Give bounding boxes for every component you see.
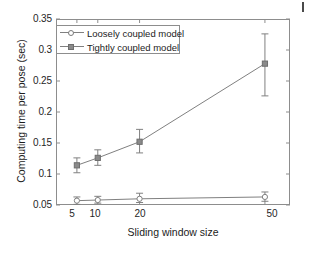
page-corner-mark [302, 2, 304, 12]
legend-box: Loosely coupled model Tightly coupled mo… [56, 25, 180, 54]
x-axis-title: Sliding window size [56, 226, 290, 238]
y-tick-label: 0.35 [10, 14, 52, 24]
legend-label: Loosely coupled model [87, 28, 184, 39]
legend-marker-open-circle-icon [57, 26, 87, 40]
legend-label: Tightly coupled model [87, 42, 179, 53]
x-tick-label: 50 [257, 208, 287, 219]
chart-figure: 0.35 0.3 0.25 0.2 0.15 0.1 0.05 5 10 20 … [0, 0, 311, 257]
legend-item-tightly-coupled: Tightly coupled model [57, 40, 181, 54]
x-tick-label: 10 [80, 208, 110, 219]
legend-marker-filled-square-icon [57, 40, 87, 54]
y-tick-label: 0.05 [10, 200, 52, 210]
legend-item-loosely-coupled: Loosely coupled model [57, 26, 181, 40]
y-axis-title: Computing time per pose (sec) [15, 26, 27, 196]
y-axis-tick-labels: 0.35 0.3 0.25 0.2 0.15 0.1 0.05 [6, 0, 52, 257]
x-tick-label: 20 [125, 208, 155, 219]
